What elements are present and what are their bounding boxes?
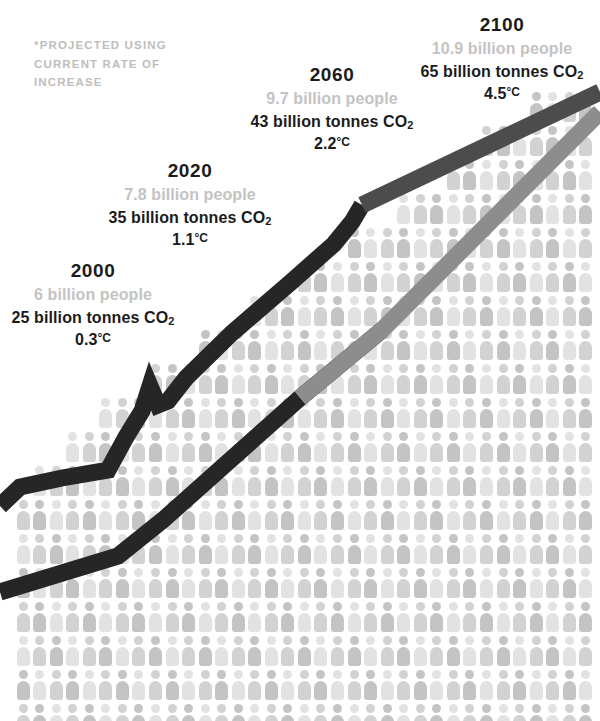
- callout-2060-temperature: 2.2°C: [232, 133, 432, 156]
- callout-2100: 2100 10.9 billion people 65 billion tonn…: [404, 12, 600, 106]
- callout-2060: 2060 9.7 billion people 43 billion tonne…: [232, 62, 432, 156]
- callout-2060-co2-value: 43 billion tonnes CO: [251, 113, 408, 130]
- callout-2020-temp-value: 1.1: [172, 231, 195, 248]
- callout-2100-temp-value: 4.5: [484, 85, 507, 102]
- callout-2000-population: 6 billion people: [0, 284, 186, 307]
- callout-2020-co2-value: 35 billion tonnes CO: [109, 209, 266, 226]
- callout-2020-year: 2020: [92, 158, 288, 184]
- projection-footnote: *Projected using current rate of increas…: [34, 36, 167, 92]
- infographic-canvas: *Projected using current rate of increas…: [0, 0, 600, 721]
- callout-2000-co2-subscript: 2: [168, 315, 174, 327]
- callout-2020-temperature: 1.1°C: [92, 229, 288, 252]
- callout-2020: 2020 7.8 billion people 35 billion tonne…: [92, 158, 288, 252]
- callout-2000-co2-value: 25 billion tonnes CO: [12, 309, 169, 326]
- callout-2020-temp-unit: °C: [194, 231, 208, 245]
- callout-2000-temp-unit: °C: [97, 331, 111, 345]
- callout-2100-co2-value: 65 billion tonnes CO: [421, 63, 578, 80]
- callout-2100-co2-subscript: 2: [577, 69, 583, 81]
- callout-2060-year: 2060: [232, 62, 432, 88]
- callout-2060-co2-subscript: 2: [407, 119, 413, 131]
- callout-2020-co2-subscript: 2: [265, 215, 271, 227]
- callout-2100-co2: 65 billion tonnes CO2: [404, 61, 600, 84]
- callout-2100-temperature: 4.5°C: [404, 83, 600, 106]
- callout-2100-population: 10.9 billion people: [404, 38, 600, 61]
- callout-2060-temp-value: 2.2: [314, 135, 337, 152]
- callout-2000-temp-value: 0.3: [75, 331, 98, 348]
- callout-2000-co2: 25 billion tonnes CO2: [0, 307, 186, 330]
- callout-2020-co2: 35 billion tonnes CO2: [92, 207, 288, 230]
- labels-layer: *Projected using current rate of increas…: [0, 0, 600, 721]
- callout-2060-co2: 43 billion tonnes CO2: [232, 111, 432, 134]
- callout-2060-population: 9.7 billion people: [232, 88, 432, 111]
- callout-2000-year: 2000: [0, 258, 186, 284]
- callout-2100-year: 2100: [404, 12, 600, 38]
- callout-2100-temp-unit: °C: [506, 85, 520, 99]
- callout-2000-temperature: 0.3°C: [0, 329, 186, 352]
- callout-2000: 2000 6 billion people 25 billion tonnes …: [0, 258, 186, 352]
- callout-2020-population: 7.8 billion people: [92, 184, 288, 207]
- callout-2060-temp-unit: °C: [336, 135, 350, 149]
